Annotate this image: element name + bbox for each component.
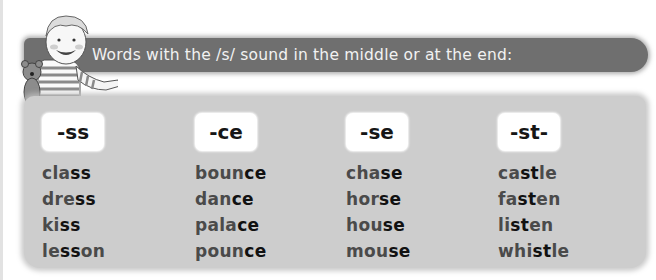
boy-with-teddy-illustration	[8, 0, 118, 110]
word: fasten	[498, 186, 569, 212]
word: lesson	[42, 238, 105, 264]
word-list: class dress kiss lesson	[42, 160, 105, 264]
column-ss: -ss class dress kiss lesson	[42, 113, 105, 264]
word: chase	[346, 160, 411, 186]
column-header: -st-	[498, 113, 560, 151]
word: palace	[195, 212, 266, 238]
page-edge	[0, 0, 3, 280]
column-header: -ce	[195, 113, 257, 151]
word: dress	[42, 186, 105, 212]
word: kiss	[42, 212, 105, 238]
word-list: chase horse house mouse	[346, 160, 411, 264]
column-ce: -ce bounce dance palace pounce	[195, 113, 266, 264]
column-se: -se chase horse house mouse	[346, 113, 411, 264]
word-list: bounce dance palace pounce	[195, 160, 266, 264]
word: dance	[195, 186, 266, 212]
word-list: castle fasten listen whistle	[498, 160, 569, 264]
word: bounce	[195, 160, 266, 186]
word: castle	[498, 160, 569, 186]
word: horse	[346, 186, 411, 212]
column-header: -se	[346, 113, 408, 151]
word: whistle	[498, 238, 569, 264]
column-header: -ss	[42, 113, 104, 151]
word: house	[346, 212, 411, 238]
word: listen	[498, 212, 569, 238]
word: mouse	[346, 238, 411, 264]
banner-title: Words with the /s/ sound in the middle o…	[92, 46, 512, 64]
column-st: -st- castle fasten listen whistle	[498, 113, 569, 264]
word: class	[42, 160, 105, 186]
word: pounce	[195, 238, 266, 264]
